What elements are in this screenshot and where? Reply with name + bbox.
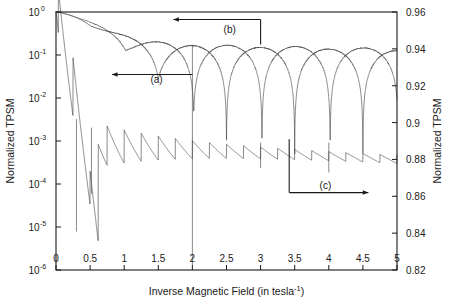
y-axis-title-left: Normalized TPSM — [4, 99, 16, 184]
annotation-b-label: (b) — [224, 24, 236, 35]
y-tick-exponent-left: -2 — [40, 91, 46, 98]
annotation-a-arrow-head — [112, 72, 118, 76]
x-tick-label: 1 — [121, 253, 127, 264]
x-tick-label: 2 — [190, 253, 196, 264]
y-tick-exponent-left: -6 — [40, 263, 46, 270]
x-tick-label: 5 — [394, 253, 400, 264]
y-tick-label-left: 10 — [28, 179, 40, 190]
x-tick-label: 0.5 — [83, 253, 97, 264]
y-tick-label-right: 0.86 — [406, 191, 426, 202]
x-tick-label: 1.5 — [151, 253, 165, 264]
y-axis-title-right: Normalized TPSM — [431, 99, 443, 184]
y-tick-label-left: 10 — [28, 265, 40, 276]
y-tick-label-left: 10 — [28, 93, 40, 104]
y-tick-label-left: 10 — [28, 50, 40, 61]
y-tick-label-right: 0.94 — [406, 44, 426, 55]
y-tick-label-right: 0.9 — [406, 118, 420, 129]
data-curves — [56, 0, 397, 268]
annotation-b-arrow-head — [173, 17, 179, 21]
y-tick-exponent-left: -5 — [40, 220, 46, 227]
tpsm-plot: 00.511.522.533.544.5510010-110-210-310-4… — [0, 0, 450, 305]
y-tick-label-left: 10 — [28, 136, 40, 147]
x-tick-label: 3.5 — [288, 253, 302, 264]
curve-annotations: (a)(b)(c) — [112, 17, 368, 195]
y-tick-exponent-left: -3 — [40, 134, 46, 141]
y-tick-label-left: 10 — [28, 7, 40, 18]
y-tick-label-right: 0.82 — [406, 265, 426, 276]
x-tick-label: 0 — [53, 253, 59, 264]
axis-labels: 00.511.522.533.544.5510010-110-210-310-4… — [4, 5, 443, 297]
y-tick-exponent-left: -4 — [40, 177, 46, 184]
annotation-a-label: (a) — [150, 74, 162, 85]
y-tick-label-left: 10 — [28, 222, 40, 233]
annotation-c-label: (c) — [320, 180, 332, 191]
annotation-c-arrow-head — [363, 190, 369, 194]
y-tick-label-right: 0.88 — [406, 154, 426, 165]
x-tick-label: 2.5 — [220, 253, 234, 264]
y-tick-exponent-left: 0 — [41, 5, 45, 12]
y-tick-label-right: 0.84 — [406, 228, 426, 239]
y-tick-label-right: 0.92 — [406, 81, 426, 92]
x-tick-label: 4 — [326, 253, 332, 264]
y-tick-exponent-left: -1 — [40, 48, 46, 55]
x-tick-label: 4.5 — [356, 253, 370, 264]
y-tick-label-right: 0.96 — [406, 7, 426, 18]
x-axis-title: Inverse Magnetic Field (in tesla-1) — [149, 284, 305, 297]
x-tick-label: 3 — [258, 253, 264, 264]
figure-container: 00.511.522.533.544.5510010-110-210-310-4… — [0, 0, 450, 305]
